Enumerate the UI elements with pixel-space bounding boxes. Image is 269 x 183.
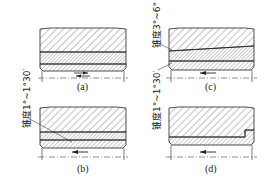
left-arrow-icon [200,150,216,154]
left-arrow-icon [72,150,88,154]
caption-d: (d) [205,163,217,174]
panel-d [166,107,257,160]
taper-label-c-upper: 锥度3°~6° [150,2,163,48]
caption-c: (c) [205,81,216,92]
taper-label-c-lower: 锥度1°~1°30′ [150,71,163,131]
caption-a: (a) [77,81,88,92]
left-arrow-icon [200,71,216,75]
panel-b [28,107,128,160]
bidirectional-arrow-icon [74,72,90,78]
taper-label-left: 锥度1°~1°30′ [20,69,33,129]
panel-c [158,28,257,82]
panel-a [38,28,128,82]
caption-b: (b) [77,163,89,174]
diagram-canvas [0,0,269,183]
